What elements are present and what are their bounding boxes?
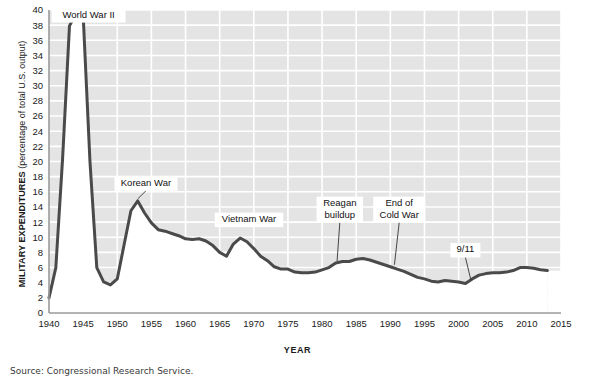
annotation-label: Korean War [121,177,171,188]
y-tick-label: 36 [32,35,43,46]
x-tick-label: 1965 [209,318,230,329]
annotation-label: End of [385,197,413,208]
y-tick-label: 12 [32,217,43,228]
annotation-label: World War II [62,9,114,20]
y-axis-tick-labels: 0246810121416182022242628303234363840 [32,4,43,318]
military-expenditures-line-chart: 0246810121416182022242628303234363840 19… [0,0,595,386]
x-tick-label: 1960 [175,318,196,329]
annotation-label: Cold War [380,209,419,220]
y-tick-label: 40 [32,4,43,15]
y-tick-label: 6 [38,262,43,273]
x-tick-label: 1995 [414,318,435,329]
y-tick-label: 0 [38,307,43,318]
y-tick-label: 8 [38,247,43,258]
x-tick-label: 1975 [277,318,298,329]
source-note: Source: Congressional Research Service. [10,366,193,376]
y-tick-label: 26 [32,110,43,121]
y-tick-label: 10 [32,232,43,243]
annotation-label: buildup [324,209,355,220]
x-axis-tick-labels: 1940194519501955196019651970197519801985… [38,318,571,329]
x-tick-label: 2005 [482,318,503,329]
y-tick-label: 14 [32,201,43,212]
x-tick-label: 1980 [311,318,332,329]
y-tick-label: 34 [32,50,43,61]
y-tick-label: 2 [38,292,43,303]
annotation-label: Reagan [323,197,356,208]
x-tick-label: 1945 [73,318,94,329]
x-tick-label: 2015 [550,318,571,329]
annotation-label: 9/11 [457,243,475,254]
y-tick-label: 16 [32,186,43,197]
x-tick-label: 1990 [380,318,401,329]
y-tick-label: 4 [38,277,43,288]
x-axis-title: YEAR [0,345,595,355]
y-tick-label: 32 [32,65,43,76]
y-tick-label: 24 [32,126,43,137]
chart-figure: 0246810121416182022242628303234363840 19… [0,0,595,386]
x-tick-label: 2010 [516,318,537,329]
y-tick-label: 18 [32,171,43,182]
x-tick-label: 1950 [107,318,128,329]
y-tick-label: 20 [32,156,43,167]
x-tick-label: 1985 [346,318,367,329]
x-tick-label: 1955 [141,318,162,329]
annotation-label: Vietnam War [222,213,276,224]
x-tick-label: 2000 [448,318,469,329]
y-tick-label: 38 [32,20,43,31]
y-tick-label: 30 [32,80,43,91]
x-tick-label: 1940 [38,318,59,329]
y-tick-label: 22 [32,141,43,152]
y-tick-label: 28 [32,95,43,106]
x-tick-label: 1970 [243,318,264,329]
